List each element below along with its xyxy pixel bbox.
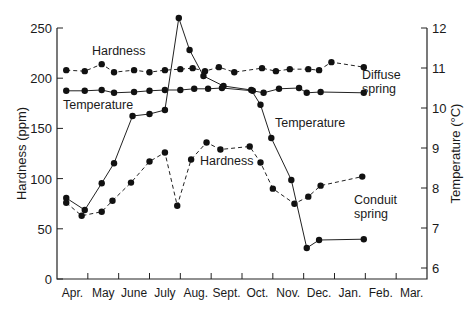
data-point <box>287 66 293 72</box>
data-point <box>317 89 323 95</box>
data-point <box>78 213 84 219</box>
data-point <box>188 156 194 162</box>
data-point <box>63 88 69 94</box>
series-diffuse-spring-temperature <box>63 85 367 96</box>
annotation-label: Hardness <box>92 44 146 58</box>
right-tick-label: 11 <box>432 61 446 76</box>
left-tick-label: 250 <box>30 21 52 36</box>
data-point <box>99 87 105 93</box>
data-point <box>99 209 105 215</box>
x-tick-label: Oct. <box>246 286 268 300</box>
data-point <box>316 67 322 73</box>
annotation-label: spring <box>362 82 396 96</box>
data-point <box>304 245 310 251</box>
x-tick-label: May <box>92 286 115 300</box>
data-point <box>203 139 209 145</box>
y-axis-right-title: Temperature (°C) <box>448 104 463 204</box>
x-tick-label: Apr. <box>62 286 83 300</box>
data-point <box>205 86 211 92</box>
data-point <box>128 179 134 185</box>
right-tick-label: 12 <box>432 21 446 36</box>
data-point <box>361 236 367 242</box>
data-point <box>111 90 117 96</box>
right-tick-label: 8 <box>432 181 439 196</box>
data-point <box>200 73 206 79</box>
data-point <box>305 193 311 199</box>
data-point <box>296 85 302 91</box>
data-point <box>111 160 117 166</box>
data-point <box>257 159 263 165</box>
x-tick-label: Mar. <box>400 286 423 300</box>
data-point <box>186 47 192 53</box>
x-tick-label: June <box>121 286 147 300</box>
data-point <box>109 197 115 203</box>
chart: 0501001502002506789101112Apr.MayJuneJuly… <box>0 0 476 310</box>
series-diffuse-spring-hardness <box>63 59 367 75</box>
annotation-label: Hardness <box>200 154 254 168</box>
data-point <box>131 89 137 95</box>
x-tick-label: Jan. <box>339 286 362 300</box>
x-tick-label: Aug. <box>183 286 208 300</box>
data-point <box>217 146 223 152</box>
data-point <box>129 113 135 119</box>
data-point <box>273 68 279 74</box>
data-point <box>111 69 117 75</box>
data-point <box>146 69 152 75</box>
data-point <box>268 135 274 141</box>
data-point <box>63 195 69 201</box>
data-point <box>270 185 276 191</box>
data-point <box>191 86 197 92</box>
data-point <box>146 88 152 94</box>
data-point <box>82 207 88 213</box>
left-tick-label: 50 <box>38 222 52 237</box>
annotation-label: Temperature <box>63 98 133 112</box>
data-point <box>177 87 183 93</box>
right-tick-label: 6 <box>432 261 439 276</box>
data-point <box>257 102 263 108</box>
data-point <box>316 237 322 243</box>
left-tick-label: 100 <box>30 172 52 187</box>
data-point <box>328 59 334 65</box>
data-point <box>304 90 310 96</box>
data-point <box>317 182 323 188</box>
x-tick-label: Feb. <box>369 286 393 300</box>
series-conduit-spring-hardness <box>63 139 365 219</box>
data-point <box>146 158 152 164</box>
right-tick-label: 9 <box>432 141 439 156</box>
data-point <box>63 67 69 73</box>
data-point <box>177 66 183 72</box>
data-point <box>174 203 180 209</box>
data-point <box>82 68 88 74</box>
data-point <box>248 87 254 93</box>
data-point <box>259 65 265 71</box>
annotation-label: Diffuse <box>362 68 401 82</box>
x-tick-label: Dec. <box>307 286 332 300</box>
data-point <box>162 149 168 155</box>
left-tick-label: 0 <box>45 272 52 287</box>
data-point <box>189 65 195 71</box>
data-point <box>162 107 168 113</box>
data-point <box>216 64 222 70</box>
annotation-label: Conduit <box>354 193 398 207</box>
annotation-label: Temperature <box>275 116 345 130</box>
data-point <box>99 61 105 67</box>
data-point <box>220 83 226 89</box>
data-point <box>131 67 137 73</box>
data-point <box>276 86 282 92</box>
x-tick-label: Sept. <box>213 286 241 300</box>
data-point <box>99 180 105 186</box>
left-tick-label: 150 <box>30 121 52 136</box>
y-axis-left-title: Hardness (ppm) <box>14 107 29 200</box>
data-point <box>231 69 237 75</box>
data-point <box>146 111 152 117</box>
data-point <box>305 66 311 72</box>
data-point <box>176 15 182 21</box>
data-point <box>260 90 266 96</box>
data-point <box>162 67 168 73</box>
data-point <box>359 173 365 179</box>
left-tick-label: 200 <box>30 71 52 86</box>
data-point <box>247 143 253 149</box>
data-point <box>82 88 88 94</box>
data-point <box>288 177 294 183</box>
right-tick-label: 10 <box>432 101 446 116</box>
